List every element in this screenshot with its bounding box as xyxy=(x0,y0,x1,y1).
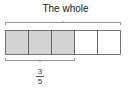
whole-brace xyxy=(6,21,121,25)
fraction-label: 3 5 xyxy=(33,67,47,86)
part-brace xyxy=(6,58,75,62)
fraction-bar-diagram xyxy=(0,0,131,91)
bar-cell-4 xyxy=(75,31,98,55)
bar-cell-1-shaded xyxy=(6,31,29,55)
bar-cell-3-shaded xyxy=(52,31,75,55)
fraction-numerator: 3 xyxy=(33,67,47,76)
fraction-bar xyxy=(6,31,121,55)
fraction-denominator: 5 xyxy=(33,77,47,86)
bar-cell-2-shaded xyxy=(29,31,52,55)
bar-cell-5 xyxy=(98,31,121,55)
